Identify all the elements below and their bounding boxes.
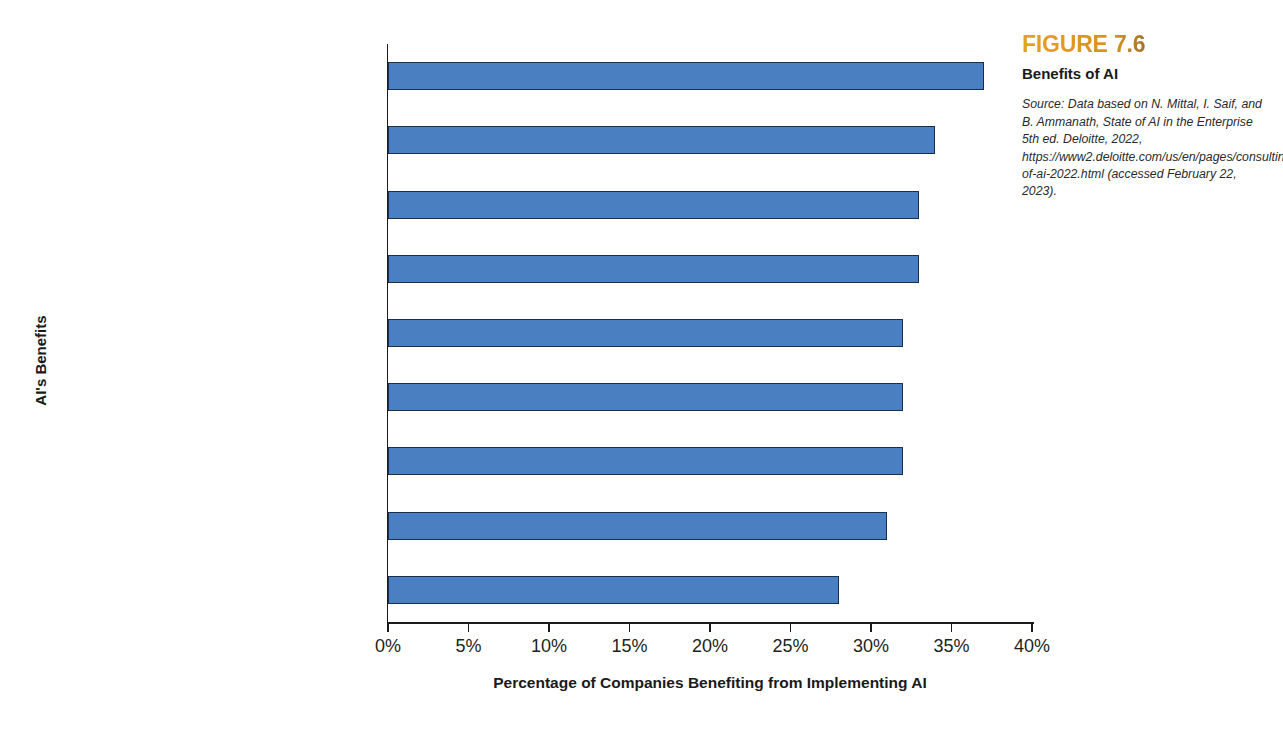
x-axis-tick-label: 20% bbox=[692, 636, 728, 657]
bar[interactable] bbox=[388, 512, 887, 540]
bar[interactable] bbox=[388, 191, 919, 219]
figure-number: FIGURE 7.6 bbox=[1022, 32, 1268, 56]
bar[interactable] bbox=[388, 576, 839, 604]
x-axis-tick-label: 40% bbox=[1014, 636, 1050, 657]
x-axis-tick-label: 10% bbox=[531, 636, 567, 657]
x-axis-tick bbox=[790, 622, 792, 632]
x-axis-tick bbox=[387, 622, 389, 632]
bar[interactable] bbox=[388, 319, 903, 347]
bar[interactable] bbox=[388, 126, 935, 154]
x-axis-tick-label: 5% bbox=[455, 636, 481, 657]
x-axis-tick bbox=[870, 622, 872, 632]
x-axis-tick-label: 0% bbox=[375, 636, 401, 657]
plot-wrapper: Lower costsDiscover valuable insightsMak… bbox=[388, 44, 1032, 622]
figure-source: Source: Data based on N. Mittal, I. Saif… bbox=[1022, 96, 1268, 201]
plot-area: Lower costsDiscover valuable insightsMak… bbox=[388, 44, 1032, 622]
x-axis-title: Percentage of Companies Benefiting from … bbox=[388, 674, 1032, 692]
y-axis-title: AI's Benefits bbox=[32, 281, 49, 441]
x-axis-tick-label: 30% bbox=[853, 636, 889, 657]
bar[interactable] bbox=[388, 255, 919, 283]
figure-caption-panel: FIGURE 7.6 Benefits of AI Source: Data b… bbox=[1022, 32, 1268, 201]
bar[interactable] bbox=[388, 447, 903, 475]
x-axis-tick bbox=[709, 622, 711, 632]
x-axis-tick bbox=[548, 622, 550, 632]
bar[interactable] bbox=[388, 62, 984, 90]
x-axis-tick bbox=[629, 622, 631, 632]
chart-container: AI's Benefits Lower costsDiscover valuab… bbox=[0, 0, 1022, 740]
x-axis-tick bbox=[468, 622, 470, 632]
x-axis-tick-label: 35% bbox=[933, 636, 969, 657]
x-axis-tick-label: 15% bbox=[611, 636, 647, 657]
x-axis-tick-label: 25% bbox=[772, 636, 808, 657]
x-axis-tick bbox=[1031, 622, 1033, 632]
bar[interactable] bbox=[388, 383, 903, 411]
figure-title: Benefits of AI bbox=[1022, 65, 1268, 83]
x-axis-tick bbox=[951, 622, 953, 632]
